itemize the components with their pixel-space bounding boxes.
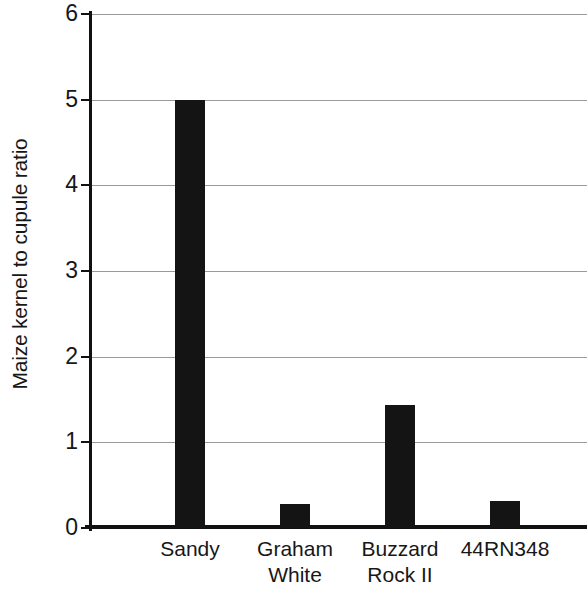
y-axis-tick-label: 5 bbox=[44, 88, 78, 111]
x-axis-category-label-line2: White bbox=[243, 562, 348, 588]
y-axis-tick-label: 6 bbox=[44, 2, 78, 25]
x-axis-category-label-line1: 44RN348 bbox=[461, 537, 550, 560]
bar bbox=[385, 405, 415, 528]
x-axis-category-label-line1: Sandy bbox=[160, 537, 220, 560]
x-axis-category-label-line1: Graham bbox=[257, 537, 333, 560]
x-axis-category-label: Sandy bbox=[138, 536, 243, 562]
y-axis-tick-label: 4 bbox=[44, 173, 78, 196]
x-axis-category-label: 44RN348 bbox=[453, 536, 558, 562]
y-axis-title-text: Maize kernel to cupule ratio bbox=[8, 138, 32, 389]
x-axis-category-label-line1: Buzzard bbox=[361, 537, 438, 560]
y-axis-title: Maize kernel to cupule ratio bbox=[0, 0, 40, 528]
bar bbox=[280, 504, 310, 528]
y-axis-tick-labels: 0123456 bbox=[40, 0, 78, 608]
x-axis-category-label-line2: Rock II bbox=[348, 562, 453, 588]
y-axis-tick-label: 3 bbox=[44, 259, 78, 282]
y-axis-tick-label: 2 bbox=[44, 345, 78, 368]
y-axis-tick-label: 1 bbox=[44, 430, 78, 453]
x-axis-category-label: BuzzardRock II bbox=[348, 536, 453, 588]
x-axis-category-labels: SandyGrahamWhiteBuzzardRock II44RN348 bbox=[89, 536, 587, 608]
bars-layer bbox=[89, 14, 587, 528]
x-axis-category-label: GrahamWhite bbox=[243, 536, 348, 588]
bar bbox=[175, 100, 205, 528]
bar bbox=[490, 501, 520, 528]
bar-chart-figure: Maize kernel to cupule ratio 0123456 San… bbox=[0, 0, 587, 608]
y-axis-tick-label: 0 bbox=[44, 516, 78, 539]
